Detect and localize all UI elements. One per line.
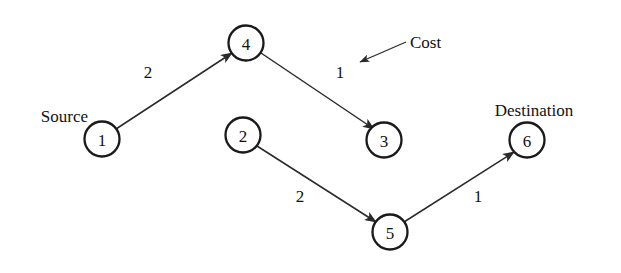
node-4-label: 4	[242, 35, 251, 54]
cost-pointer-arrow	[360, 42, 406, 62]
node-2-label: 2	[239, 127, 248, 146]
node-group: 1 4 3 2 5 6	[85, 26, 545, 250]
edge-2-to-5	[257, 146, 376, 222]
node-3[interactable]: 3	[367, 123, 402, 158]
edge-5-to-6	[404, 152, 514, 222]
role-label-group: Source Destination	[41, 101, 574, 126]
node-6-label: 6	[523, 132, 532, 151]
cost-annotation-label: Cost	[410, 33, 441, 52]
destination-label: Destination	[495, 101, 574, 120]
graph-diagram: 2 1 2 1 Cost Source Destination 1 4	[0, 0, 621, 273]
node-1[interactable]: 1	[85, 122, 120, 157]
source-label: Source	[41, 107, 88, 126]
edge-weight-1-to-4: 2	[144, 63, 153, 82]
node-4[interactable]: 4	[229, 26, 264, 61]
edge-weight-5-to-6: 1	[474, 187, 483, 206]
cost-annotation: Cost	[360, 33, 441, 63]
node-5[interactable]: 5	[373, 215, 408, 250]
edge-weight-group: 2 1 2 1	[144, 63, 483, 206]
node-5-label: 5	[386, 224, 395, 243]
node-3-label: 3	[380, 132, 389, 151]
edge-group	[116, 53, 514, 222]
edge-weight-4-to-3: 1	[336, 63, 345, 82]
node-2[interactable]: 2	[226, 118, 261, 153]
graph-canvas: 2 1 2 1 Cost Source Destination 1 4	[0, 0, 621, 273]
node-6[interactable]: 6	[510, 123, 545, 158]
edge-weight-2-to-5: 2	[296, 187, 305, 206]
edge-4-to-3	[261, 53, 374, 129]
node-1-label: 1	[98, 131, 107, 150]
edge-1-to-4	[116, 53, 232, 129]
